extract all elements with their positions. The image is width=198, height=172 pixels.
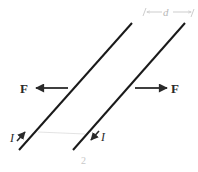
stray-mark: 2 <box>81 155 86 166</box>
current-arrow-up-icon <box>17 132 25 141</box>
current-arrow-down-icon <box>91 131 99 140</box>
separation-label: d <box>163 6 169 18</box>
wire-left <box>19 23 132 150</box>
current-right: I <box>91 130 106 144</box>
dimension-tick-right <box>191 9 194 17</box>
faint-scan-line <box>38 132 85 134</box>
current-label-right: I <box>100 130 106 144</box>
current-left: I <box>9 131 25 145</box>
force-right: F <box>135 81 179 96</box>
current-label-left: I <box>9 131 15 145</box>
force-label-right: F <box>171 81 179 96</box>
wire-right <box>73 23 185 150</box>
parallel-wires-diagram: d F F I I 2 <box>0 0 198 172</box>
dimension-tick-left <box>143 8 146 16</box>
force-left: F <box>20 81 68 96</box>
separation-dimension: d <box>143 6 194 18</box>
force-label-left: F <box>20 81 28 96</box>
